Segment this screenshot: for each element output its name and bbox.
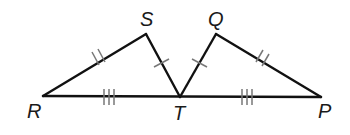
label-S: S — [140, 8, 154, 30]
segment-ST — [146, 34, 180, 97]
segment-RS — [43, 34, 146, 96]
double-tick-RS — [92, 49, 105, 65]
triangle-diagram: S Q R T P — [0, 0, 350, 135]
label-Q: Q — [208, 8, 224, 30]
segment-RP — [43, 96, 321, 97]
single-tick-TQ — [192, 59, 207, 67]
label-P: P — [318, 100, 332, 122]
label-T: T — [173, 102, 187, 124]
segment-QP — [216, 34, 321, 97]
label-R: R — [27, 100, 41, 122]
segment-TQ — [180, 34, 216, 97]
